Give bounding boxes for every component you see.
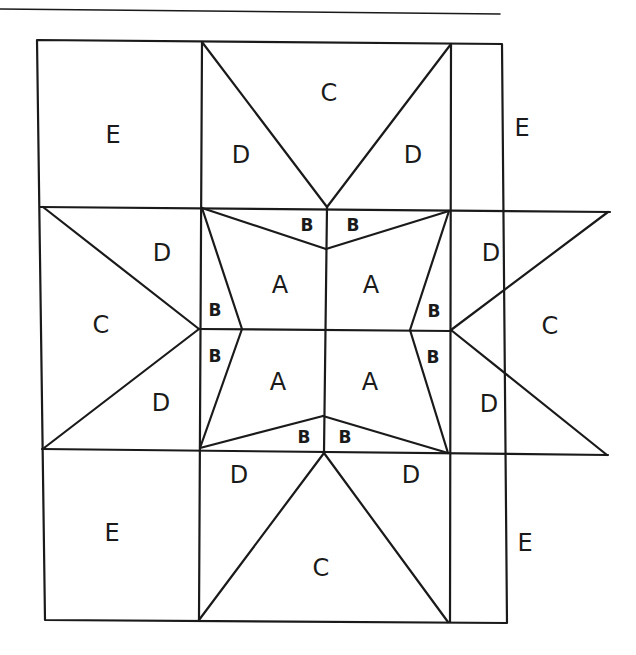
label-center-a-bl: A [270, 368, 287, 396]
label-corner-br: E [517, 529, 532, 557]
label-bottom-c: C [313, 554, 330, 582]
label-top-d-left: D [232, 141, 250, 169]
label-center-a-tr: A [363, 271, 380, 299]
label-b-bottom-right: B [339, 427, 352, 447]
right-star-point [451, 212, 608, 455]
label-corner-tl: E [105, 121, 120, 149]
label-b-left-bottom: B [209, 346, 222, 366]
quilt-block-diagram: E E E E C D D C D D C D D C D D A A A A … [0, 0, 636, 655]
left-star-point [43, 207, 199, 448]
label-b-bottom-left: B [298, 427, 311, 447]
label-left-d-top: D [153, 239, 171, 267]
label-corner-tr: E [514, 114, 529, 142]
label-b-top-right: B [347, 215, 360, 235]
label-b-right-top: B [428, 301, 441, 321]
top-rule [0, 9, 500, 14]
label-right-d-bottom: D [480, 390, 498, 418]
top-star-point [202, 42, 451, 207]
label-right-d-top: D [482, 239, 500, 267]
label-b-left-top: B [209, 300, 222, 320]
label-left-d-bottom: D [152, 389, 170, 417]
label-b-top-left: B [301, 215, 314, 235]
label-right-c: C [542, 312, 559, 340]
label-top-c: C [321, 79, 338, 107]
center-star [199, 207, 451, 453]
label-top-d-right: D [404, 141, 422, 169]
label-left-c: C [93, 311, 110, 339]
label-center-a-tl: A [272, 271, 289, 299]
label-bottom-d-right: D [402, 461, 420, 489]
label-corner-bl: E [104, 519, 119, 547]
label-b-right-bottom: B [427, 347, 440, 367]
label-center-a-br: A [362, 368, 379, 396]
label-bottom-d-left: D [230, 461, 248, 489]
